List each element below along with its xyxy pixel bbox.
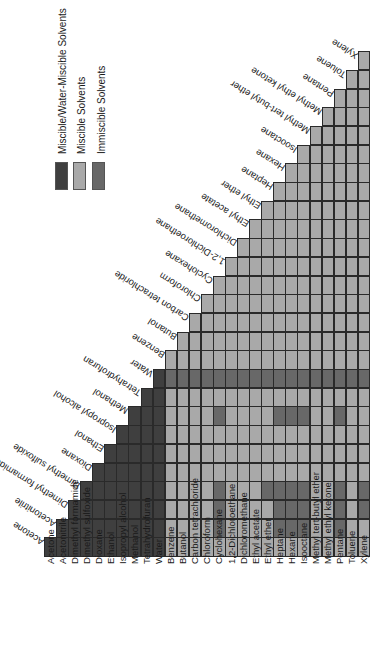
- column-label: Methyl ethyl ketone: [323, 482, 333, 564]
- grid-cell: [128, 444, 141, 463]
- grid-cell: [177, 332, 190, 351]
- grid-cell: [358, 388, 371, 407]
- grid-cell: [297, 388, 310, 407]
- grid-cell: [346, 163, 359, 182]
- grid-cell: [334, 444, 347, 463]
- grid-cell: [346, 89, 359, 108]
- grid-cell: [322, 257, 335, 276]
- grid-cell: [104, 500, 117, 519]
- grid-cell: [261, 201, 274, 220]
- grid-cell: [346, 425, 359, 444]
- grid-cell: [346, 257, 359, 276]
- grid-cell: [237, 276, 250, 295]
- grid-cell: [201, 313, 214, 332]
- grid-cell: [297, 313, 310, 332]
- grid-cell: [297, 276, 310, 295]
- grid-cell: [225, 369, 238, 388]
- grid-cell: [297, 444, 310, 463]
- legend-swatch-immiscible: [92, 162, 105, 190]
- grid-cell: [213, 425, 226, 444]
- grid-cell: [273, 406, 286, 425]
- grid-cell: [322, 201, 335, 220]
- grid-cell: [310, 126, 323, 145]
- grid-cell: [165, 500, 178, 519]
- grid-cell: [285, 294, 298, 313]
- grid-cell: [358, 444, 371, 463]
- miscibility-chart: Miscible/Water-Miscible Solvents Miscibl…: [0, 0, 379, 649]
- grid-cell: [297, 257, 310, 276]
- grid-cell: [237, 425, 250, 444]
- grid-cell: [165, 425, 178, 444]
- grid-cell: [285, 500, 298, 519]
- grid-cell: [285, 219, 298, 238]
- grid-cell: [322, 350, 335, 369]
- grid-cell: [177, 350, 190, 369]
- row-label: Methyl ethyl ketone: [249, 66, 323, 117]
- grid-cell: [334, 238, 347, 257]
- grid-cell: [346, 500, 359, 519]
- grid-cell: [116, 463, 129, 482]
- grid-cell: [273, 313, 286, 332]
- grid-cell: [346, 444, 359, 463]
- grid-cell: [213, 294, 226, 313]
- grid-cell: [128, 425, 141, 444]
- grid-cell: [285, 463, 298, 482]
- row-label: Dioxane: [59, 446, 94, 473]
- grid-cell: [285, 238, 298, 257]
- grid-cell: [285, 406, 298, 425]
- grid-cell: [346, 294, 359, 313]
- grid-cell: [273, 294, 286, 313]
- grid-cell: [358, 238, 371, 257]
- grid-cell: [334, 201, 347, 220]
- grid-cell: [346, 276, 359, 295]
- grid-cell: [165, 406, 178, 425]
- grid-cell: [334, 425, 347, 444]
- grid-cell: [189, 406, 202, 425]
- grid-cell: [249, 219, 262, 238]
- grid-cell: [261, 219, 274, 238]
- grid-cell: [310, 388, 323, 407]
- grid-cell: [334, 350, 347, 369]
- grid-cell: [261, 425, 274, 444]
- grid-cell: [177, 481, 190, 500]
- column-label: Acetonitrile: [58, 517, 68, 564]
- grid-cell: [334, 463, 347, 482]
- grid-cell: [322, 294, 335, 313]
- grid-cell: [285, 425, 298, 444]
- column-label: Ethyl ether: [263, 519, 273, 564]
- grid-cell: [104, 481, 117, 500]
- row-label: Heptane: [239, 165, 274, 192]
- grid-cell: [213, 388, 226, 407]
- grid-cell: [334, 126, 347, 145]
- grid-cell: [225, 406, 238, 425]
- grid-cell: [249, 332, 262, 351]
- grid-cell: [273, 276, 286, 295]
- column-label: Chloroform: [202, 517, 212, 564]
- grid-cell: [310, 163, 323, 182]
- grid-cell: [297, 369, 310, 388]
- grid-cell: [310, 238, 323, 257]
- grid-cell: [116, 425, 129, 444]
- grid-cell: [273, 388, 286, 407]
- grid-cell: [322, 406, 335, 425]
- grid-cell: [334, 257, 347, 276]
- column-label: Heptane: [275, 528, 285, 564]
- grid-cell: [358, 51, 371, 70]
- grid-cell: [141, 388, 154, 407]
- grid-cell: [310, 350, 323, 369]
- row-label: Methanol: [92, 387, 130, 416]
- grid-cell: [201, 406, 214, 425]
- row-label: Carbon tetrachloride: [112, 269, 190, 323]
- grid-cell: [249, 276, 262, 295]
- grid-cell: [346, 388, 359, 407]
- grid-cell: [261, 257, 274, 276]
- grid-cell: [285, 332, 298, 351]
- column-label: Isooctane: [299, 523, 309, 564]
- grid-cell: [322, 463, 335, 482]
- grid-cell: [322, 163, 335, 182]
- grid-cell: [273, 182, 286, 201]
- grid-cell: [273, 444, 286, 463]
- grid-cell: [358, 70, 371, 89]
- grid-cell: [261, 406, 274, 425]
- grid-cell: [273, 481, 286, 500]
